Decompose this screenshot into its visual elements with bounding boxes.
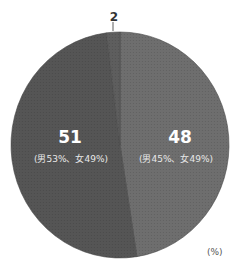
unit-label: (%) [207, 247, 223, 257]
right-slice-value: 48 [155, 127, 205, 147]
left-slice-value: 51 [45, 127, 95, 147]
left-slice-detail: (男53%、女49%) [28, 152, 114, 165]
right-slice-detail: (男45%、女49%) [133, 152, 219, 165]
small-slice-label: 2 [106, 10, 122, 24]
